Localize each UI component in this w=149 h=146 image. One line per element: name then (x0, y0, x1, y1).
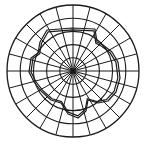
polar-diagram (0, 0, 149, 146)
polar-grid-canvas (0, 0, 149, 146)
